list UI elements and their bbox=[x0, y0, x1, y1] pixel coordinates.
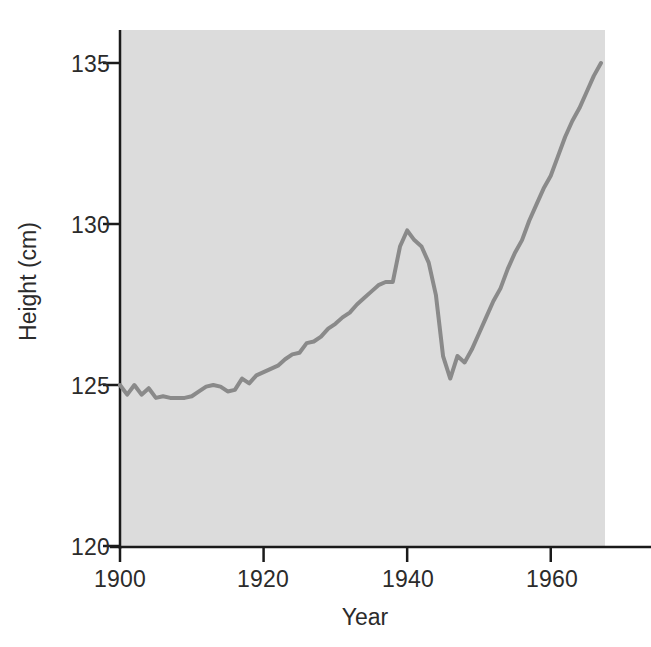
x-tick-label-1920: 1920 bbox=[213, 566, 313, 593]
y-axis-title: Height (cm) bbox=[15, 217, 42, 347]
y-tick-label-130: 130 bbox=[54, 212, 110, 239]
x-axis-title: Year bbox=[315, 604, 415, 631]
line-chart-figure: 135 130 125 120 1900 1920 1940 1960 Heig… bbox=[0, 0, 651, 647]
y-tick-label-135: 135 bbox=[54, 51, 110, 78]
x-tick-label-1960: 1960 bbox=[502, 566, 602, 593]
x-tick-label-1940: 1940 bbox=[358, 566, 458, 593]
x-axis-ticks bbox=[120, 547, 551, 562]
y-tick-label-125: 125 bbox=[54, 373, 110, 400]
y-axis-ticks bbox=[103, 63, 121, 546]
plot-background bbox=[120, 30, 605, 547]
y-tick-label-120: 120 bbox=[54, 534, 110, 561]
x-tick-label-1900: 1900 bbox=[70, 566, 170, 593]
